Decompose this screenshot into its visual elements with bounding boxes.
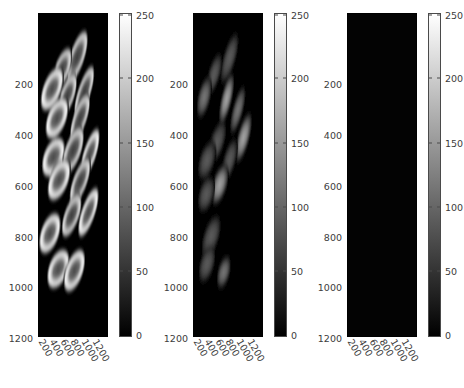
heatmap-image-panel-1[interactable] — [38, 13, 108, 337]
colorbar-tick-label: 200 — [291, 73, 309, 84]
figure-canvas: 200 400 600 800 1000 1200 — [0, 0, 464, 388]
y-tick-label: 600 — [15, 180, 33, 191]
x-axis-labels-panel-2: 200 400 600 800 1000 1200 — [193, 337, 263, 388]
y-axis-labels-panel-2: 200 400 600 800 1000 1200 — [155, 13, 190, 337]
y-tick-label: 800 — [170, 231, 188, 242]
colorbar-tick-label: 250 — [291, 9, 309, 20]
y-tick-label: 400 — [15, 129, 33, 140]
colorbar-tick-label: 200 — [445, 73, 463, 84]
y-tick-label: 200 — [324, 79, 342, 90]
colorbar-tick-label: 50 — [136, 265, 148, 276]
colorbar-tick-label: 150 — [136, 137, 154, 148]
colorbar-panel-1[interactable] — [119, 13, 132, 337]
y-axis-labels-panel-1: 200 400 600 800 1000 1200 — [0, 13, 35, 337]
colorbar-tick-label: 200 — [136, 73, 154, 84]
colorbar-tick-label: 50 — [445, 265, 457, 276]
colorbar-tick-label: 250 — [136, 9, 154, 20]
y-tick-label: 1000 — [318, 282, 342, 293]
y-tick-label: 400 — [170, 129, 188, 140]
image-panel-2: 200 400 600 800 1000 1200 — [155, 0, 310, 388]
y-tick-label: 1000 — [9, 282, 33, 293]
y-tick-label: 800 — [15, 231, 33, 242]
colorbar-panel-3[interactable] — [428, 13, 441, 337]
colorbar-panel-2[interactable] — [274, 13, 287, 337]
colorbar-tick-label: 0 — [445, 329, 451, 340]
image-panel-3: 200 400 600 800 1000 1200 200 400 600 80… — [309, 0, 464, 388]
x-axis-labels-panel-1: 200 400 600 800 1000 1200 — [38, 337, 108, 388]
y-tick-label: 600 — [170, 180, 188, 191]
colorbar-tick-label: 250 — [445, 9, 463, 20]
blob-field-panel-3 — [347, 13, 417, 337]
colorbar-tick-label: 100 — [445, 201, 463, 212]
y-tick-label: 400 — [324, 129, 342, 140]
heatmap-image-panel-2[interactable] — [193, 13, 263, 337]
image-panel-1: 200 400 600 800 1000 1200 — [0, 0, 155, 388]
colorbar-tick-label: 100 — [291, 201, 309, 212]
colorbar-tick-label: 50 — [291, 265, 303, 276]
x-axis-labels-panel-3: 200 400 600 800 1000 1200 — [347, 337, 417, 388]
y-tick-label: 1200 — [318, 332, 342, 343]
colorbar-tick-label: 150 — [291, 137, 309, 148]
colorbar-tick-label: 150 — [445, 137, 463, 148]
blob-field-panel-2 — [193, 13, 263, 337]
heatmap-image-panel-3[interactable] — [347, 13, 417, 337]
colorbar-tick-label: 100 — [136, 201, 154, 212]
colorbar-tick-label: 0 — [291, 329, 297, 340]
y-tick-label: 800 — [324, 231, 342, 242]
blob-field-panel-1 — [38, 13, 108, 337]
y-tick-label: 1200 — [164, 332, 188, 343]
y-tick-label: 1000 — [164, 282, 188, 293]
y-tick-label: 200 — [15, 79, 33, 90]
y-tick-label: 1200 — [9, 332, 33, 343]
y-tick-label: 600 — [324, 180, 342, 191]
colorbar-tick-label: 0 — [136, 329, 142, 340]
y-axis-labels-panel-3: 200 400 600 800 1000 1200 — [309, 13, 344, 337]
y-tick-label: 200 — [170, 79, 188, 90]
